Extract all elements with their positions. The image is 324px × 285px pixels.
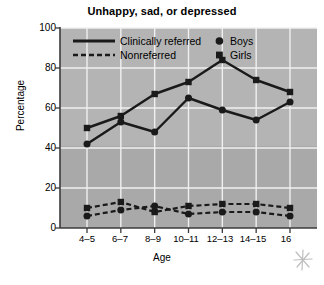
legend-label-3: Girls bbox=[230, 49, 252, 61]
data-point-3-1 bbox=[117, 207, 124, 214]
data-point-1-6 bbox=[287, 99, 294, 106]
data-point-3-2 bbox=[151, 203, 158, 210]
data-point-0-2 bbox=[151, 91, 157, 97]
legend-label-1: Nonreferred bbox=[120, 49, 176, 61]
data-point-2-0 bbox=[84, 205, 90, 211]
asterisk-scribble-annotation bbox=[292, 248, 314, 272]
data-point-1-0 bbox=[84, 141, 91, 148]
data-point-2-5 bbox=[253, 201, 259, 207]
legend-label-0: Clinically referred bbox=[120, 35, 201, 47]
data-point-3-3 bbox=[185, 211, 192, 218]
legend-label-2: Boys bbox=[230, 35, 253, 47]
data-point-3-4 bbox=[219, 209, 226, 216]
data-point-2-2 bbox=[151, 209, 157, 215]
data-point-2-3 bbox=[185, 203, 191, 209]
data-point-0-1 bbox=[118, 113, 124, 119]
data-point-1-2 bbox=[151, 129, 158, 136]
data-point-3-0 bbox=[84, 213, 91, 220]
data-point-2-6 bbox=[287, 205, 293, 211]
data-point-0-0 bbox=[84, 125, 90, 131]
data-point-1-4 bbox=[219, 107, 226, 114]
data-point-1-3 bbox=[185, 95, 192, 102]
data-point-2-1 bbox=[118, 199, 124, 205]
data-point-1-5 bbox=[253, 117, 260, 124]
data-point-0-6 bbox=[287, 89, 293, 95]
legend-marker-2 bbox=[216, 37, 224, 45]
data-point-0-5 bbox=[253, 77, 259, 83]
chart-figure: Unhappy, sad, or depressed Percentage Ag… bbox=[0, 0, 324, 285]
data-point-3-5 bbox=[253, 209, 260, 216]
data-point-0-3 bbox=[185, 79, 191, 85]
legend-marker-3 bbox=[216, 52, 223, 59]
data-point-2-4 bbox=[219, 201, 225, 207]
data-point-3-6 bbox=[287, 213, 294, 220]
data-point-1-1 bbox=[117, 119, 124, 126]
plot-area: Clinically referredNonreferredBoysGirls bbox=[0, 0, 324, 285]
